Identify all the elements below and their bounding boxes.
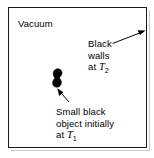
label-walls-line1: Black <box>88 38 112 49</box>
label-walls-temperature-subscript: 2 <box>105 67 109 74</box>
label-object-line2: object initially <box>56 118 114 129</box>
label-walls-line2: walls <box>88 50 110 61</box>
label-object-line3-prefix: at <box>56 129 67 140</box>
label-vacuum: Vacuum <box>18 18 53 30</box>
black-object-blob <box>53 69 62 88</box>
label-object-line1: Small black <box>56 106 106 117</box>
label-object-temperature-subscript: 1 <box>73 135 77 142</box>
arrow-to-wall-line <box>113 32 144 44</box>
arrow-to-wall-head <box>138 30 146 35</box>
label-black-walls: Black walls at T2 <box>88 38 112 76</box>
label-vacuum-text: Vacuum <box>18 18 53 29</box>
label-walls-line3-prefix: at <box>88 61 99 72</box>
blackbody-cavity-figure: Vacuum Black walls at T2 Small black obj… <box>0 0 154 158</box>
label-black-object: Small black object initially at T1 <box>56 106 114 144</box>
